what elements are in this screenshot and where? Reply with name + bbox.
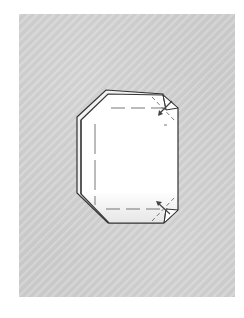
front-panel [81, 94, 178, 223]
origami-diagram [0, 0, 244, 318]
